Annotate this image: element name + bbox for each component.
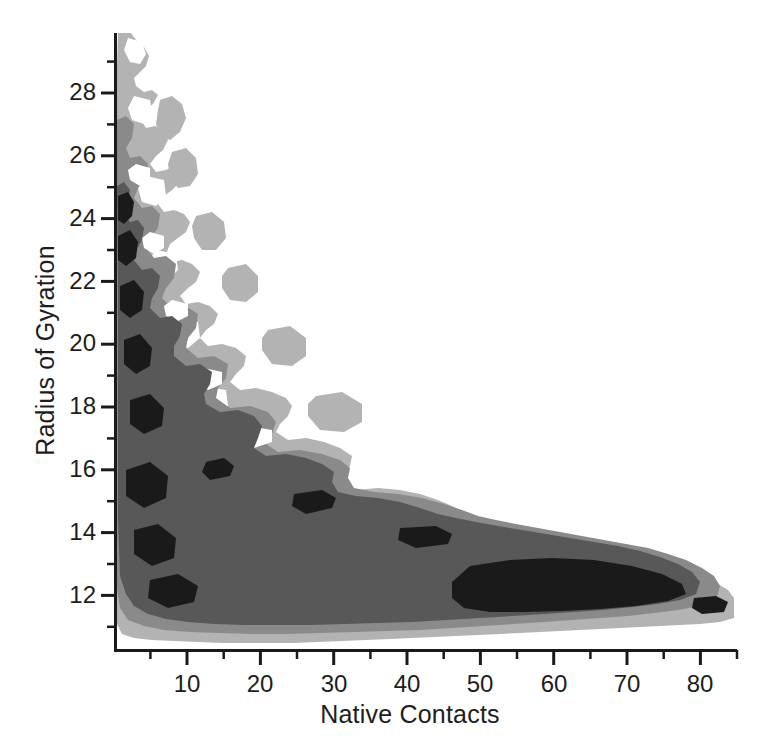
contour-plot-figure: 28 26 24 22 20 18 16 14 12 10 20 30 40 5… [0, 0, 763, 755]
x-tick-label-80: 80 [670, 670, 730, 698]
y-tick-label-12: 12 [46, 581, 96, 609]
y-axis-title: Radius of Gyration [31, 186, 60, 516]
axis-lines [0, 0, 763, 755]
x-axis-title: Native Contacts [200, 700, 620, 729]
x-tick-label-20: 20 [230, 670, 290, 698]
y-tick-label-28: 28 [46, 78, 96, 106]
y-tick-label-14: 14 [46, 518, 96, 546]
y-major-ticks [101, 93, 116, 595]
x-tick-label-60: 60 [524, 670, 584, 698]
x-tick-label-30: 30 [304, 670, 364, 698]
x-tick-label-70: 70 [597, 670, 657, 698]
x-tick-label-50: 50 [450, 670, 510, 698]
y-tick-label-26: 26 [46, 141, 96, 169]
x-tick-label-10: 10 [157, 670, 217, 698]
x-tick-label-40: 40 [377, 670, 437, 698]
